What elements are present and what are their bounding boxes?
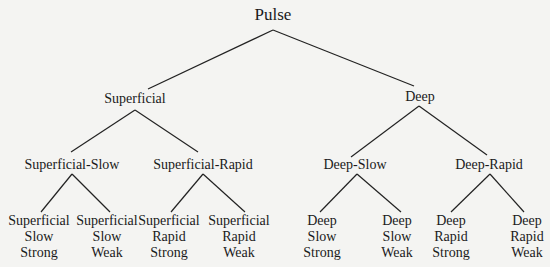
leaf-line: Strong (138, 245, 199, 261)
leaf-superficial-rapid-weak: Superficial Rapid Weak (208, 213, 269, 261)
edge-pulse-deep (273, 30, 414, 86)
leaf-line: Rapid (208, 229, 269, 245)
leaf-superficial-rapid-strong: Superficial Rapid Strong (138, 213, 199, 261)
edge-ds-strong (320, 174, 357, 212)
leaf-line: Superficial (8, 213, 69, 229)
node-deep-slow: Deep-Slow (324, 158, 387, 173)
edge-superficial-rapid (135, 110, 198, 152)
edge-dr-weak (490, 174, 524, 212)
leaf-line: Weak (76, 245, 137, 261)
leaf-superficial-slow-weak: Superficial Slow Weak (76, 213, 137, 261)
leaf-line: Strong (432, 245, 469, 261)
node-deep: Deep (405, 90, 435, 105)
leaf-line: Superficial (76, 213, 137, 229)
leaf-line: Rapid (138, 229, 199, 245)
node-pulse: Pulse (255, 6, 292, 24)
edge-ss-weak (72, 174, 110, 212)
node-superficial-rapid: Superficial-Rapid (153, 158, 253, 173)
leaf-deep-rapid-weak: Deep Rapid Weak (510, 213, 543, 261)
node-deep-rapid: Deep-Rapid (455, 158, 523, 173)
leaf-line: Slow (76, 229, 137, 245)
edge-deep-slow (351, 106, 419, 157)
leaf-line: Deep (510, 213, 543, 229)
leaf-line: Slow (381, 229, 413, 245)
edge-deep-rapid (419, 106, 487, 155)
leaf-superficial-slow-strong: Superficial Slow Strong (8, 213, 69, 261)
edge-pulse-superficial (148, 30, 273, 89)
edge-dr-strong (451, 174, 490, 212)
leaf-deep-slow-weak: Deep Slow Weak (381, 213, 413, 261)
leaf-deep-rapid-strong: Deep Rapid Strong (432, 213, 469, 261)
leaf-line: Superficial (208, 213, 269, 229)
edge-ds-weak (357, 174, 401, 212)
leaf-line: Weak (381, 245, 413, 261)
leaf-deep-slow-strong: Deep Slow Strong (303, 213, 340, 261)
leaf-line: Weak (510, 245, 543, 261)
leaf-line: Deep (381, 213, 413, 229)
node-superficial-slow: Superficial-Slow (25, 158, 120, 173)
leaf-line: Rapid (510, 229, 543, 245)
edge-sr-strong (171, 174, 203, 212)
leaf-line: Slow (303, 229, 340, 245)
edge-sr-weak (203, 174, 245, 212)
edge-superficial-slow (71, 110, 135, 152)
leaf-line: Deep (432, 213, 469, 229)
leaf-line: Slow (8, 229, 69, 245)
leaf-line: Superficial (138, 213, 199, 229)
leaf-line: Rapid (432, 229, 469, 245)
edge-ss-strong (41, 174, 72, 212)
leaf-line: Strong (8, 245, 69, 261)
leaf-line: Weak (208, 245, 269, 261)
leaf-line: Strong (303, 245, 340, 261)
leaf-line: Deep (303, 213, 340, 229)
node-superficial: Superficial (104, 92, 165, 107)
